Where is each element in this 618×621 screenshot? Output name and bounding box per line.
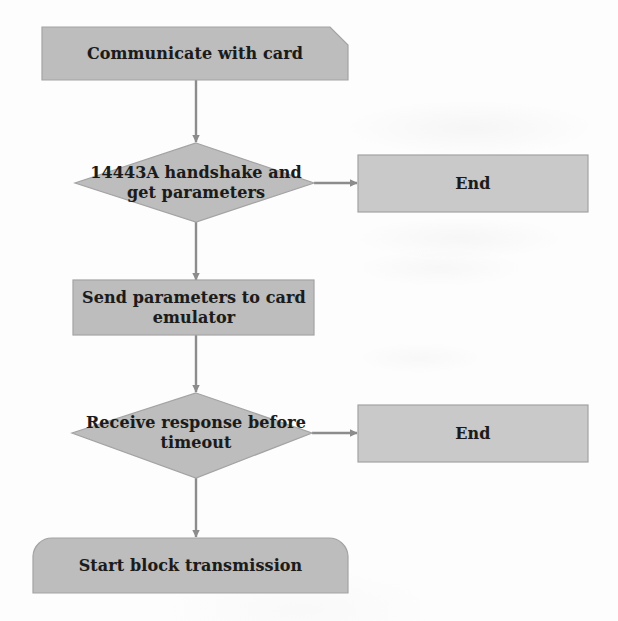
node-start-shape[interactable] (42, 27, 348, 80)
node-send-parameters-shape[interactable] (73, 280, 314, 335)
node-end-timeout-shape[interactable] (358, 405, 588, 462)
flowchart-shapes (0, 0, 618, 621)
node-end-handshake-shape[interactable] (358, 155, 588, 212)
node-decision-handshake-shape[interactable] (75, 143, 314, 222)
node-decision-timeout-shape[interactable] (72, 393, 312, 478)
node-start-block-transmission-shape[interactable] (33, 538, 348, 593)
flowchart-canvas: Communicate with card 14443A handshake a… (0, 0, 618, 621)
